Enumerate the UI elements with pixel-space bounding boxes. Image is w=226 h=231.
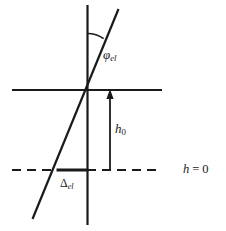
label-phi-el-subscript: el bbox=[110, 53, 116, 63]
label-h0-subscript: 0 bbox=[122, 127, 126, 137]
label-h0: h0 bbox=[115, 122, 126, 135]
angle-arc bbox=[88, 34, 104, 39]
label-delta-el-symbol: Δ bbox=[60, 176, 68, 190]
schematic-diagram bbox=[0, 0, 226, 231]
label-h0-symbol: h bbox=[115, 121, 122, 136]
label-h-equals-zero: h=0 bbox=[183, 163, 209, 176]
slanted-line bbox=[33, 9, 119, 219]
label-delta-el: Δel bbox=[60, 177, 74, 189]
label-phi-el: φel bbox=[103, 48, 117, 61]
label-delta-el-subscript: el bbox=[68, 182, 74, 191]
label-h-equals-zero-symbol: h bbox=[183, 162, 189, 176]
label-h-equals-zero-operator: = bbox=[192, 162, 199, 176]
label-h-equals-zero-value: 0 bbox=[202, 162, 208, 176]
figure-canvas: φel h0 Δel h=0 bbox=[0, 0, 226, 231]
